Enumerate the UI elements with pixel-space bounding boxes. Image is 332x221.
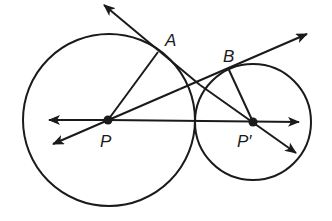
label-b: B bbox=[223, 47, 234, 66]
line-p-p-prime-right bbox=[108, 120, 299, 122]
tangent-line-a-up bbox=[104, 5, 200, 85]
label-p-prime: P′ bbox=[237, 132, 252, 151]
label-p: P bbox=[100, 132, 112, 151]
tangent-line-b-up bbox=[180, 34, 307, 89]
geometry-diagram: A B P P′ bbox=[0, 0, 332, 221]
label-a: A bbox=[164, 31, 176, 50]
point-p-prime bbox=[249, 118, 258, 127]
tangent-line-b-down bbox=[53, 89, 180, 144]
point-p bbox=[104, 116, 113, 125]
